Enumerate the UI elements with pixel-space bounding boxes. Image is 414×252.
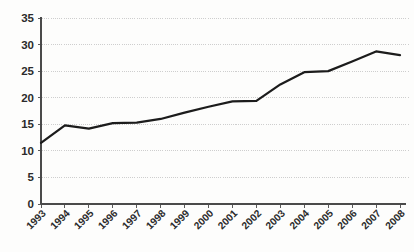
gridlines-group xyxy=(42,18,410,177)
x-axis-tick-label: 1996 xyxy=(96,207,120,231)
x-axis-tick-label: 2008 xyxy=(383,207,407,231)
x-axis-tick-label: 1999 xyxy=(168,207,192,231)
x-axis-tick-label: 2006 xyxy=(335,207,359,231)
y-axis-labels-group: 05101520253035 xyxy=(21,12,34,210)
x-axis-tick-label: 2000 xyxy=(192,207,216,231)
y-axis-tick-label: 15 xyxy=(21,118,34,130)
x-axis-ticks-group xyxy=(41,204,400,208)
y-axis-tick-label: 30 xyxy=(21,39,34,51)
line-chart: 05101520253035 1993199419951996199719981… xyxy=(0,0,414,252)
y-axis-tick-label: 35 xyxy=(21,12,34,24)
x-axis-tick-label: 1993 xyxy=(24,207,48,231)
x-axis-tick-label: 2005 xyxy=(311,207,335,231)
x-axis-tick-label: 1994 xyxy=(48,207,72,231)
x-axis-tick-label: 2004 xyxy=(287,207,311,231)
data-series-line xyxy=(41,51,400,142)
x-axis-labels-group: 1993199419951996199719981999200020012002… xyxy=(24,207,407,231)
y-axis-tick-label: 20 xyxy=(21,92,34,104)
x-axis-tick-label: 1997 xyxy=(120,207,144,231)
figure-container: 05101520253035 1993199419951996199719981… xyxy=(0,0,414,252)
y-axis-tick-label: 10 xyxy=(21,145,34,157)
x-axis-tick-label: 2002 xyxy=(240,207,264,231)
y-axis-tick-label: 0 xyxy=(28,198,34,210)
x-axis-tick-label: 2007 xyxy=(359,207,383,231)
y-axis-tick-label: 25 xyxy=(21,65,34,77)
y-axis-tick-label: 5 xyxy=(28,171,35,183)
x-axis-tick-label: 1995 xyxy=(72,207,96,231)
x-axis-tick-label: 2001 xyxy=(216,207,240,231)
x-axis-tick-label: 2003 xyxy=(263,207,287,231)
x-axis-tick-label: 1998 xyxy=(144,207,168,231)
